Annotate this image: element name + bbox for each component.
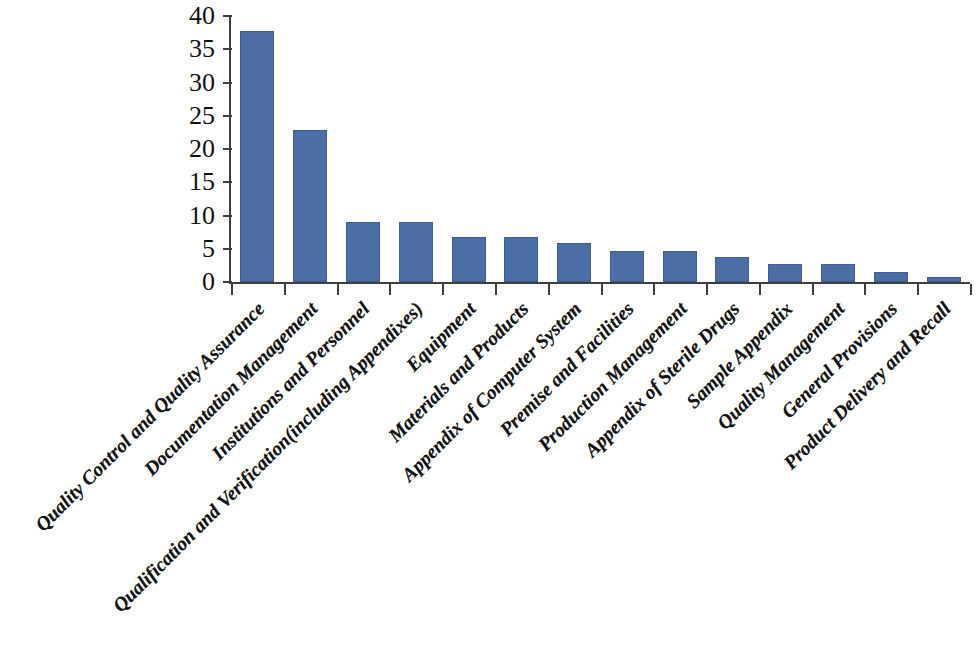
y-axis-tick-label: 40: [95, 1, 215, 31]
x-axis-tick-mark: [917, 284, 919, 295]
bar-slot: [759, 16, 812, 282]
bar-slot: [864, 16, 917, 282]
bar-series: [231, 16, 970, 282]
bar-slot: [231, 16, 284, 282]
bar-slot: [337, 16, 390, 282]
x-axis-tick-mark: [601, 284, 603, 295]
bar-slot: [495, 16, 548, 282]
bar[interactable]: [240, 31, 274, 282]
bar-slot: [548, 16, 601, 282]
bar[interactable]: [610, 251, 644, 282]
bar[interactable]: [557, 243, 591, 282]
bar-slot: [389, 16, 442, 282]
bar[interactable]: [346, 222, 380, 282]
bar-slot: [917, 16, 970, 282]
bar-slot: [442, 16, 495, 282]
y-axis-tick-label: 10: [95, 201, 215, 231]
bar[interactable]: [399, 222, 433, 282]
bar[interactable]: [715, 257, 749, 282]
x-axis-tick-mark: [706, 284, 708, 295]
x-axis-tick-mark: [653, 284, 655, 295]
bar-chart: 0510152025303540 Quality Control and Qua…: [0, 0, 980, 655]
bar[interactable]: [927, 277, 961, 282]
x-axis-tick-mark: [759, 284, 761, 295]
x-axis-tick-mark: [442, 284, 444, 295]
bar-slot: [706, 16, 759, 282]
x-axis-tick-mark: [389, 284, 391, 295]
bar-slot: [812, 16, 865, 282]
bar[interactable]: [293, 130, 327, 282]
x-axis-tick-mark: [548, 284, 550, 295]
y-axis-tick-label: 5: [95, 234, 215, 264]
x-axis-ticks: [231, 284, 970, 296]
x-axis-tick-mark: [495, 284, 497, 295]
y-axis-tick-label: 25: [95, 101, 215, 131]
bar[interactable]: [452, 237, 486, 282]
y-axis-tick-label: 15: [95, 167, 215, 197]
y-axis-tick-label: 20: [95, 134, 215, 164]
bar-slot: [284, 16, 337, 282]
y-axis-tick-label: 0: [95, 267, 215, 297]
y-axis-tick-label: 30: [95, 68, 215, 98]
x-axis-tick-mark: [231, 284, 233, 295]
y-axis-tick-label: 35: [95, 34, 215, 64]
x-axis-tick-mark: [284, 284, 286, 295]
x-axis-tick-mark: [337, 284, 339, 295]
bar[interactable]: [504, 237, 538, 282]
bar[interactable]: [874, 272, 908, 282]
bar[interactable]: [663, 251, 697, 282]
x-axis-tick-mark: [970, 284, 972, 295]
x-axis-tick-mark: [812, 284, 814, 295]
bar[interactable]: [768, 264, 802, 282]
bar-slot: [600, 16, 653, 282]
bar-slot: [653, 16, 706, 282]
bar[interactable]: [821, 264, 855, 282]
x-axis-tick-mark: [864, 284, 866, 295]
x-axis-labels: Quality Control and Quality AssuranceDoc…: [231, 296, 970, 636]
